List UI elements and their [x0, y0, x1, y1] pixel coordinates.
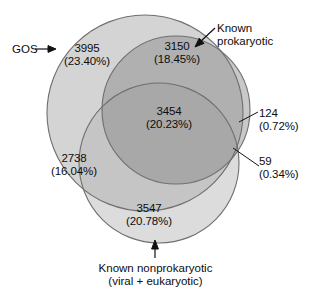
- region-percent-gos-prokaryotic: (18.45%): [146, 53, 208, 66]
- region-percent-nonprokaryotic-only: (20.78%): [113, 215, 185, 228]
- region-label-gos-only: 3995 (23.40%): [56, 42, 118, 68]
- set-label-gos-text: GOS: [12, 43, 38, 55]
- region-percent-gos-only: (23.40%): [56, 55, 118, 68]
- region-label-gos-nonprokaryotic: 2738 (16.04%): [38, 152, 110, 178]
- region-count-prokaryotic-nonprokaryotic: 124: [259, 107, 310, 120]
- region-label-nonprokaryotic-only: 3547 (20.78%): [113, 202, 185, 228]
- set-label-prokaryotic-line1: Known: [217, 22, 252, 34]
- region-count-gos-prokaryotic: 3150: [146, 40, 208, 53]
- region-percent-prokaryotic-nonprokaryotic: (0.72%): [259, 120, 310, 133]
- region-count-gos-only: 3995: [56, 42, 118, 55]
- region-count-gos-nonprokaryotic: 2738: [38, 152, 110, 165]
- region-label-all-three: 3454 (20.23%): [133, 105, 205, 131]
- region-count-nonprokaryotic-only: 3547: [113, 202, 185, 215]
- set-label-prokaryotic: Known prokaryotic: [217, 22, 273, 48]
- region-percent-gos-nonprokaryotic: (16.04%): [38, 165, 110, 178]
- region-count-all-three: 3454: [133, 105, 205, 118]
- venn-diagram-figure: 3995 (23.40%) 3150 (18.45%) 3454 (20.23%…: [0, 0, 310, 298]
- set-label-nonprokaryotic-line2: (viral + eukaryotic): [108, 275, 202, 287]
- gos-arrowhead: [48, 46, 56, 53]
- set-label-nonprokaryotic-line1: Known nonprokaryotic: [99, 262, 213, 274]
- set-label-gos: GOS: [12, 43, 38, 56]
- region-count-prokaryotic-only: 59: [259, 155, 310, 168]
- set-label-nonprokaryotic: Known nonprokaryotic (viral + eukaryotic…: [78, 262, 233, 288]
- region-percent-prokaryotic-only: (0.34%): [259, 168, 310, 181]
- set-label-prokaryotic-line2: prokaryotic: [217, 35, 273, 47]
- region-label-prokaryotic-only: 59 (0.34%): [259, 155, 310, 181]
- region-label-prokaryotic-nonprokaryotic: 124 (0.72%): [259, 107, 310, 133]
- region-percent-all-three: (20.23%): [133, 118, 205, 131]
- region-label-gos-prokaryotic: 3150 (18.45%): [146, 40, 208, 66]
